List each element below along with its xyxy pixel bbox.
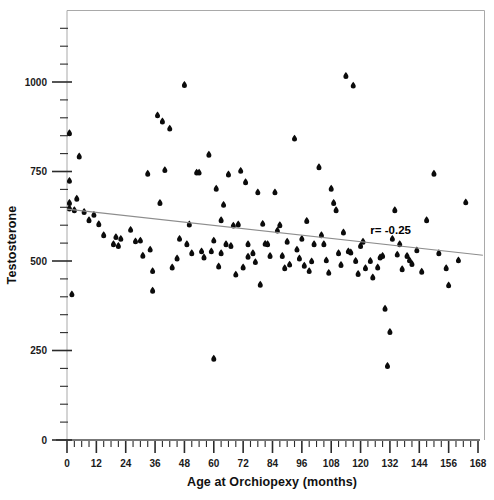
x-tick-label: 132: [382, 458, 399, 469]
x-tick-label: 60: [208, 458, 220, 469]
x-tick-label: 0: [64, 458, 70, 469]
y-tick-label: 1000: [25, 77, 48, 88]
x-tick-label: 120: [352, 458, 369, 469]
x-tick-label: 36: [150, 458, 162, 469]
x-axis-tick-labels: 01224364860728496108120132144156168: [64, 458, 487, 469]
x-tick-label: 168: [470, 458, 487, 469]
x-axis-title: Age at Orchiopexy (months): [187, 475, 357, 489]
x-tick-label: 12: [91, 458, 103, 469]
y-tick-label: 750: [30, 166, 47, 177]
x-tick-label: 156: [440, 458, 457, 469]
annotations-group: r= -0.25: [370, 224, 411, 236]
x-tick-label: 72: [238, 458, 250, 469]
y-axis-title: Testosterone: [5, 206, 19, 285]
x-tick-label: 96: [296, 458, 308, 469]
x-tick-label: 108: [323, 458, 340, 469]
correlation-label: r= -0.25: [370, 224, 411, 236]
x-tick-label: 144: [411, 458, 428, 469]
x-tick-label: 24: [120, 458, 132, 469]
x-tick-label: 48: [179, 458, 191, 469]
y-tick-label: 500: [30, 256, 47, 267]
x-tick-label: 84: [267, 458, 279, 469]
plot-canvas: 02505007501000 0122436486072849610812013…: [0, 0, 494, 500]
y-tick-label: 0: [41, 435, 47, 446]
chart-background: [0, 0, 494, 500]
y-tick-label: 250: [30, 345, 47, 356]
scatter-chart: 02505007501000 0122436486072849610812013…: [0, 0, 494, 500]
